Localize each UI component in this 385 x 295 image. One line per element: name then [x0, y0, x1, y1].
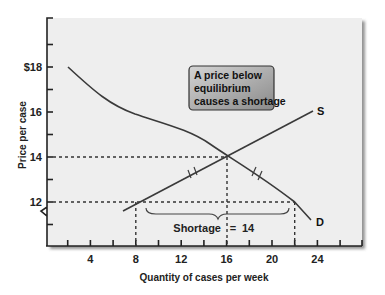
callout-line-3: causes a shortage: [194, 95, 286, 107]
callout-line-1: A price below: [194, 69, 263, 81]
x-tick-label-24: 24: [311, 253, 324, 265]
callout-box: A price below equilibrium causes a short…: [189, 66, 286, 110]
demand-label: D: [316, 216, 324, 228]
x-axis-title: Quantity of cases per week: [140, 272, 269, 283]
supply-label: S: [317, 105, 324, 117]
shortage-equals: =: [230, 222, 236, 234]
x-tick-label-4: 4: [87, 253, 94, 265]
y-axis-title: Price per case: [17, 101, 28, 169]
shortage-label: Shortage: [173, 222, 221, 234]
callout-line-2: equilibrium: [194, 82, 251, 94]
x-tick-label-8: 8: [133, 253, 139, 265]
y-tick-label-14: 14: [30, 151, 43, 163]
supply-demand-chart: $18 16 14 12 4 8 12 16 20 24 Price per c…: [0, 0, 385, 295]
x-tick-label-16: 16: [220, 253, 232, 265]
y-tick-label-18: $18: [24, 61, 42, 73]
shortage-value: 14: [242, 222, 255, 234]
y-tick-label-16: 16: [30, 106, 42, 118]
x-tick-label-20: 20: [266, 253, 278, 265]
y-tick-label-12: 12: [30, 196, 42, 208]
x-tick-label-12: 12: [175, 253, 187, 265]
plot-panel: [47, 18, 362, 246]
